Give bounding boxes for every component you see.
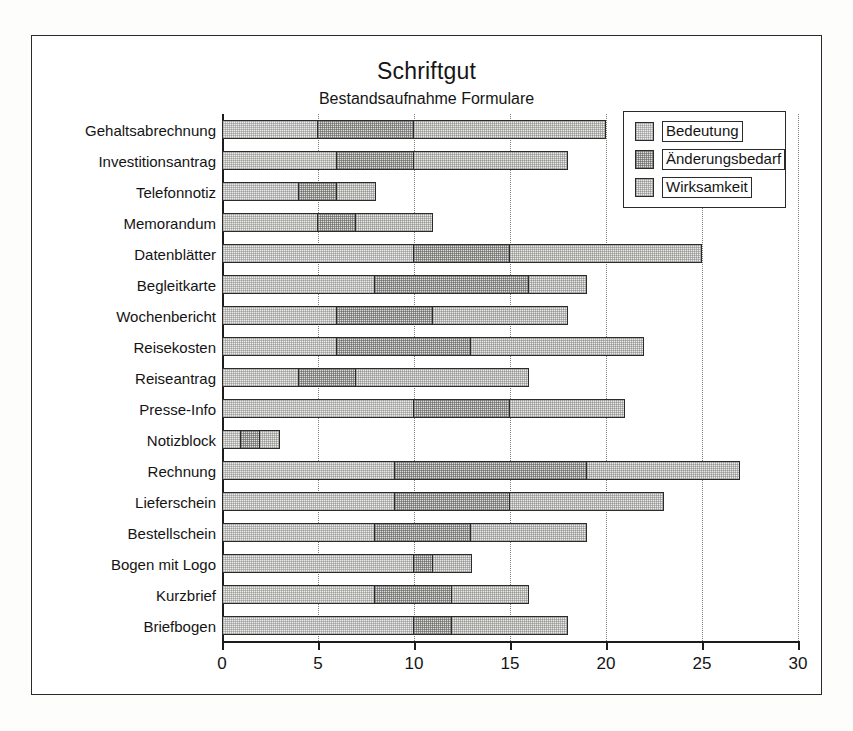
bar-segment[interactable] <box>222 461 395 480</box>
bar-row[interactable] <box>222 213 433 232</box>
category-label: Datenblätter <box>41 245 216 262</box>
bar-segment[interactable] <box>470 337 644 356</box>
bar-segment[interactable] <box>394 492 510 511</box>
chart-page: Schriftgut Bestandsaufnahme Formulare Ge… <box>0 0 853 731</box>
bar-row[interactable] <box>222 244 702 263</box>
bar-segment[interactable] <box>222 554 414 573</box>
bar-row[interactable] <box>222 368 529 387</box>
bar-row[interactable] <box>222 461 740 480</box>
category-label: Telefonnotiz <box>41 183 216 200</box>
bar-segment[interactable] <box>259 430 279 449</box>
category-label: Begleitkarte <box>41 276 216 293</box>
category-label: Reisekosten <box>41 338 216 355</box>
bar-segment[interactable] <box>374 523 471 542</box>
bar-segment[interactable] <box>451 616 567 635</box>
x-tick-30 <box>798 641 800 650</box>
bar-segment[interactable] <box>298 368 357 387</box>
bar-segment[interactable] <box>355 368 529 387</box>
legend-item[interactable]: Wirksamkeit <box>635 177 775 198</box>
bar-segment[interactable] <box>509 399 625 418</box>
bar-segment[interactable] <box>222 616 414 635</box>
category-label: Gehaltsabrechnung <box>41 121 216 138</box>
bar-segment[interactable] <box>222 275 376 294</box>
legend-label: Änderungsbedarf <box>662 149 785 170</box>
bar-segment[interactable] <box>317 120 414 139</box>
bar-row[interactable] <box>222 399 625 418</box>
bar-segment[interactable] <box>451 585 529 604</box>
bar-segment[interactable] <box>413 244 510 263</box>
x-tick-label-20: 20 <box>597 654 616 674</box>
bar-segment[interactable] <box>336 151 414 170</box>
x-tick-20 <box>606 641 608 650</box>
x-tick-15 <box>510 641 512 650</box>
bar-row[interactable] <box>222 585 529 604</box>
legend-label: Wirksamkeit <box>662 177 752 198</box>
gridline-30 <box>798 114 799 641</box>
bar-segment[interactable] <box>413 399 510 418</box>
bar-segment[interactable] <box>355 213 433 232</box>
bar-row[interactable] <box>222 182 376 201</box>
x-tick-25 <box>702 641 704 650</box>
bar-segment[interactable] <box>222 492 395 511</box>
category-label: Wochenbericht <box>41 307 216 324</box>
bar-segment[interactable] <box>432 554 472 573</box>
bar-row[interactable] <box>222 616 568 635</box>
bar-segment[interactable] <box>222 120 318 139</box>
bar-segment[interactable] <box>432 306 568 325</box>
category-label: Bogen mit Logo <box>41 555 216 572</box>
bar-segment[interactable] <box>413 616 453 635</box>
bar-segment[interactable] <box>336 337 472 356</box>
bar-segment[interactable] <box>470 523 586 542</box>
bar-segment[interactable] <box>394 461 587 480</box>
bar-segment[interactable] <box>222 306 337 325</box>
category-label: Lieferschein <box>41 493 216 510</box>
bar-row[interactable] <box>222 523 587 542</box>
bar-segment[interactable] <box>413 120 606 139</box>
legend-swatch-bedeutung-icon <box>635 122 654 141</box>
bar-segment[interactable] <box>222 182 299 201</box>
bar-segment[interactable] <box>509 244 702 263</box>
bar-row[interactable] <box>222 337 644 356</box>
bar-row[interactable] <box>222 306 568 325</box>
bar-row[interactable] <box>222 275 587 294</box>
legend-item[interactable]: Änderungsbedarf <box>635 149 775 170</box>
legend-item[interactable]: Bedeutung <box>635 121 775 142</box>
bar-row[interactable] <box>222 120 606 139</box>
bar-segment[interactable] <box>413 554 433 573</box>
bar-segment[interactable] <box>222 244 414 263</box>
bar-segment[interactable] <box>317 213 357 232</box>
bar-row[interactable] <box>222 492 664 511</box>
bar-segment[interactable] <box>222 151 337 170</box>
bar-segment[interactable] <box>222 368 299 387</box>
bar-segment[interactable] <box>509 492 664 511</box>
x-tick-label-5: 5 <box>313 654 322 674</box>
bar-segment[interactable] <box>222 337 337 356</box>
bar-segment[interactable] <box>222 213 318 232</box>
bar-segment[interactable] <box>586 461 741 480</box>
x-tick-label-0: 0 <box>217 654 226 674</box>
gridline-20 <box>606 114 607 641</box>
bar-segment[interactable] <box>298 182 338 201</box>
legend-label: Bedeutung <box>662 121 743 142</box>
bar-row[interactable] <box>222 151 568 170</box>
chart-subtitle: Bestandsaufnahme Formulare <box>32 90 821 108</box>
bar-segment[interactable] <box>222 430 241 449</box>
bar-segment[interactable] <box>222 523 376 542</box>
category-label: Presse-Info <box>41 400 216 417</box>
bar-row[interactable] <box>222 554 472 573</box>
bar-segment[interactable] <box>222 585 376 604</box>
category-label: Rechnung <box>41 462 216 479</box>
bar-segment[interactable] <box>336 306 433 325</box>
bar-segment[interactable] <box>528 275 587 294</box>
bar-segment[interactable] <box>336 182 376 201</box>
bar-segment[interactable] <box>374 275 529 294</box>
bar-segment[interactable] <box>374 585 452 604</box>
bar-segment[interactable] <box>240 430 260 449</box>
chart-frame: Schriftgut Bestandsaufnahme Formulare Ge… <box>31 35 822 695</box>
bar-row[interactable] <box>222 430 280 449</box>
category-label: Investitionsantrag <box>41 152 216 169</box>
x-tick-label-30: 30 <box>789 654 808 674</box>
bar-segment[interactable] <box>413 151 568 170</box>
bar-segment[interactable] <box>222 399 414 418</box>
x-tick-0 <box>222 641 224 650</box>
